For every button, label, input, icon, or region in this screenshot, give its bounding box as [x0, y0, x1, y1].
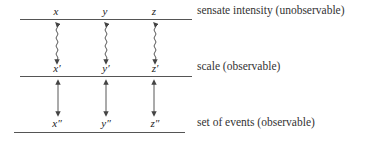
wavy-arrow-y: [105, 24, 107, 62]
arrow-layer: [0, 0, 368, 141]
wavy-arrow-x: [56, 24, 58, 62]
wavy-arrow-z: [154, 24, 156, 62]
